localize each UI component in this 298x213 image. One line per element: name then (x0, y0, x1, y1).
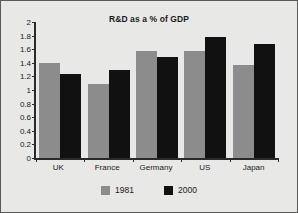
y-axis-tick-label: 1 (27, 86, 31, 95)
bar-germany-1981 (136, 51, 157, 158)
y-axis-tick-label: 1.6 (20, 45, 31, 54)
x-axis-tick-mark (133, 158, 134, 162)
bar-france-1981 (88, 84, 109, 158)
x-axis-tick-mark (278, 158, 279, 162)
bar-germany-2000 (157, 57, 178, 158)
y-axis-tick-label: 0.2 (20, 140, 31, 149)
legend-item-1981[interactable]: 1981 (101, 185, 134, 195)
legend-swatch-2000 (164, 186, 173, 195)
legend-label-2000: 2000 (178, 185, 197, 195)
bar-japan-2000 (254, 44, 275, 158)
y-axis-tick-label: 0.8 (20, 99, 31, 108)
bar-uk-2000 (60, 74, 81, 158)
bar-japan-1981 (233, 65, 254, 158)
legend-swatch-1981 (101, 186, 110, 195)
bar-group (133, 22, 181, 158)
bar-us-1981 (184, 51, 205, 158)
x-axis-tick-mark (230, 158, 231, 162)
x-axis-label-uk: UK (34, 163, 83, 172)
legend-item-2000[interactable]: 2000 (164, 185, 197, 195)
y-axis-tick-label: 0.4 (20, 126, 31, 135)
x-axis-label-japan: Japan (229, 163, 278, 172)
y-axis-tick-label: 0.6 (20, 113, 31, 122)
bar-uk-1981 (39, 63, 60, 158)
x-axis-tick-mark (84, 158, 85, 162)
y-axis-tick-label: 0 (27, 154, 31, 163)
bar-group (84, 22, 132, 158)
x-axis-tick-mark (181, 158, 182, 162)
y-axis-tick-label: 1.2 (20, 72, 31, 81)
legend-label-1981: 1981 (115, 185, 134, 195)
bar-group (36, 22, 84, 158)
chart-figure: R&D as a % of GDP 00.20.40.60.811.21.41.… (0, 0, 298, 213)
x-axis-label-france: France (83, 163, 132, 172)
x-axis-tick-mark (36, 158, 37, 162)
bar-group (181, 22, 229, 158)
y-axis-tick-label: 1.8 (20, 31, 31, 40)
bar-groups (36, 22, 278, 158)
plot-area: 00.20.40.60.811.21.41.61.82 (34, 22, 278, 160)
x-axis-label-germany: Germany (132, 163, 181, 172)
x-axis-labels: UKFranceGermanyUSJapan (34, 163, 278, 172)
chart-legend: 19812000 (1, 185, 297, 195)
bar-group (230, 22, 278, 158)
bar-us-2000 (205, 37, 226, 158)
y-axis-tick-label: 1.4 (20, 58, 31, 67)
bar-france-2000 (109, 70, 130, 158)
x-axis-label-us: US (180, 163, 229, 172)
y-axis-tick-label: 2 (27, 18, 31, 27)
